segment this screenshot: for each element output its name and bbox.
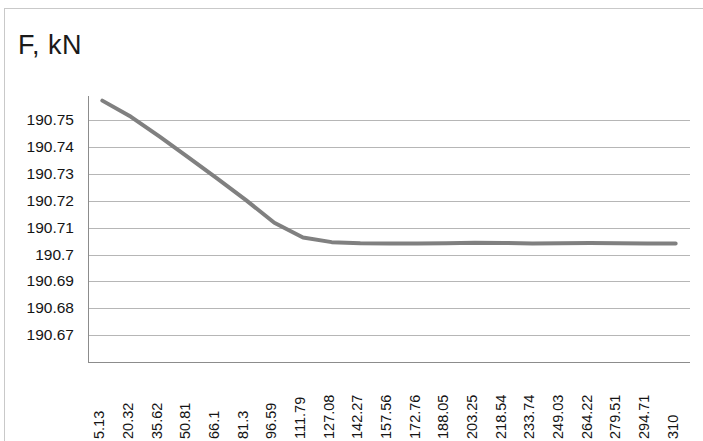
y-tick-label: 190.7	[35, 246, 74, 264]
x-tick-label: 5.13	[91, 411, 107, 439]
x-tick-label: 249.03	[550, 395, 566, 439]
y-tick-label: 190.73	[27, 165, 74, 183]
chart-figure: F, kN 190.67190.68190.69190.7190.71190.7…	[0, 0, 703, 441]
x-tick-label: 96.59	[263, 403, 279, 439]
y-tick-label: 190.74	[27, 138, 74, 156]
x-tick-label: 218.54	[493, 395, 509, 439]
x-tick-label: 172.76	[407, 395, 423, 439]
x-tick-label: 66.1	[206, 411, 222, 439]
y-axis-tick-labels: 190.67190.68190.69190.7190.71190.72190.7…	[0, 0, 84, 441]
x-tick-label: 264.22	[579, 395, 595, 439]
x-tick-label: 279.51	[607, 395, 623, 439]
y-tick-label: 190.75	[27, 111, 74, 129]
x-tick-label: 203.25	[464, 395, 480, 439]
y-tick-label: 190.72	[27, 192, 74, 210]
y-tick-label: 190.71	[27, 219, 74, 237]
x-tick-label: 81.3	[235, 411, 251, 439]
x-tick-label: 127.08	[321, 395, 337, 439]
scan-edge-top	[4, 8, 703, 9]
y-tick-label: 190.68	[27, 299, 74, 317]
x-tick-label: 188.05	[435, 395, 451, 439]
x-tick-label: 20.32	[120, 403, 136, 439]
x-axis-tick-labels: 5.1320.3235.6250.8166.181.396.59111.7912…	[88, 366, 690, 441]
data-series-line	[88, 96, 690, 363]
x-tick-label: 157.56	[378, 395, 394, 439]
x-tick-label: 233.74	[521, 395, 537, 439]
y-tick-label: 190.67	[27, 326, 74, 344]
x-tick-label: 142.27	[349, 395, 365, 439]
x-tick-label: 35.62	[149, 403, 165, 439]
x-tick-label: 310	[665, 415, 681, 439]
x-tick-label: 294.71	[636, 395, 652, 439]
y-tick-label: 190.69	[27, 272, 74, 290]
x-tick-label: 111.79	[292, 397, 308, 439]
x-tick-label: 50.81	[177, 403, 193, 439]
